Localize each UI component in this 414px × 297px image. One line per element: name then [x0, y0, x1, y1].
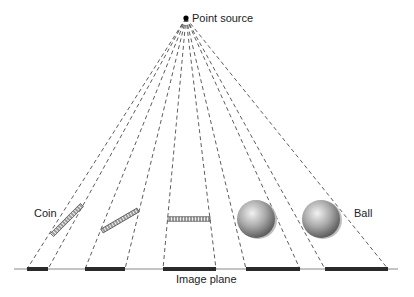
- point-source-dot: [183, 15, 188, 20]
- coin-label: Coin: [34, 207, 57, 219]
- ray-line: [125, 18, 186, 269]
- projection-diagram: [0, 0, 414, 297]
- ball-object: [302, 200, 342, 239]
- point-source-label: Point source: [192, 12, 253, 24]
- objects: [50, 200, 342, 239]
- shadow-segment: [163, 267, 216, 271]
- ray-line: [186, 18, 246, 269]
- ray-line: [27, 18, 186, 269]
- ray-line: [163, 18, 186, 269]
- image-plane-label: Image plane: [176, 273, 237, 285]
- image-plane: [14, 267, 398, 271]
- coin-object: [168, 217, 210, 221]
- shadow-segment: [246, 267, 300, 271]
- ray-line: [186, 18, 216, 269]
- ray-line: [85, 18, 186, 269]
- ray-line: [48, 18, 186, 269]
- ball-label: Ball: [354, 207, 372, 219]
- shadow-segment: [85, 267, 125, 271]
- shadow-segment: [325, 267, 388, 271]
- coin-object: [101, 208, 139, 233]
- shadow-segment: [27, 267, 48, 271]
